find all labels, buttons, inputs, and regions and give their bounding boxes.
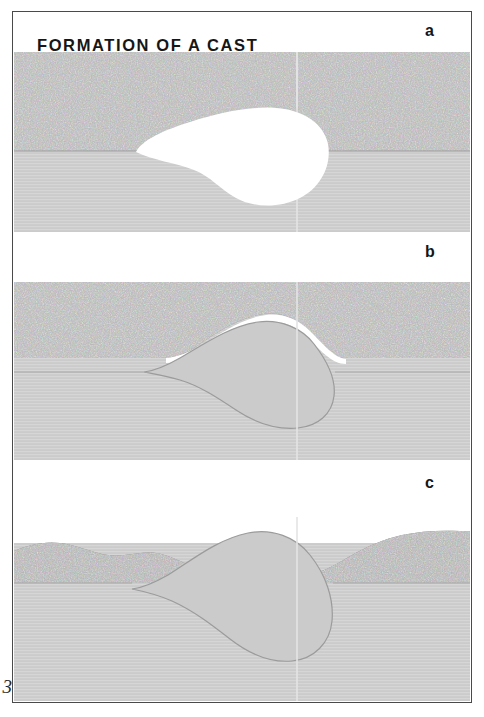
panel-label-c: c — [425, 474, 434, 492]
panel-a-open-void — [14, 52, 470, 232]
panel-label-a: a — [425, 22, 434, 40]
figure-root: FORMATION OF A CAST a b c — [0, 0, 484, 717]
panel-a-diagram — [14, 52, 470, 232]
panel-c-exposed-cast — [14, 497, 470, 701]
panel-b-diagram — [14, 268, 470, 460]
panel-c-diagram — [14, 497, 470, 701]
panel-label-b: b — [425, 243, 435, 261]
page-number: 3 — [0, 676, 12, 698]
panel-b-filled-void — [14, 268, 470, 460]
panel-top-margin — [14, 268, 470, 282]
